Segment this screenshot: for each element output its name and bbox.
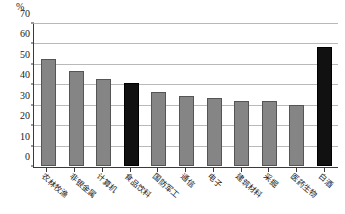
x-axis-category-labels: 农林牧渔非银金属计算机食品饮料国防军工通信电子建筑材料采掘医药生物白酒 <box>33 172 338 214</box>
x-label-slot: 采掘 <box>255 172 283 214</box>
bar-slot <box>200 24 228 166</box>
bar-slot <box>145 24 173 166</box>
x-label-slot: 食品饮料 <box>116 172 144 214</box>
bar <box>41 59 56 167</box>
bar <box>179 96 194 166</box>
y-tick-mark <box>31 84 34 85</box>
bar-slot <box>310 24 338 166</box>
x-category-label: 白酒 <box>316 172 334 189</box>
y-tick-label: 70 <box>20 9 30 19</box>
x-label-slot: 农林牧渔 <box>33 172 61 214</box>
bar <box>289 105 304 166</box>
bar-slot <box>173 24 201 166</box>
bar <box>207 98 222 166</box>
bar <box>234 101 249 166</box>
plot-area: 010203040506070 <box>33 24 338 168</box>
y-tick-mark <box>31 104 34 105</box>
bar-series <box>35 24 338 166</box>
x-category-label: 计算机 <box>95 172 119 194</box>
bar-slot <box>35 24 63 166</box>
bar-slot <box>228 24 256 166</box>
bar <box>124 83 139 166</box>
x-category-label: 采掘 <box>261 172 279 189</box>
gridline <box>34 166 338 167</box>
x-label-slot: 建筑材料 <box>227 172 255 214</box>
x-label-slot: 计算机 <box>88 172 116 214</box>
bar-slot <box>255 24 283 166</box>
bar-slot <box>63 24 91 166</box>
bar <box>317 47 332 166</box>
y-tick-mark <box>31 125 34 126</box>
x-category-label: 电子 <box>205 172 223 189</box>
y-tick-label: 30 <box>20 91 30 101</box>
y-tick-label: 10 <box>20 132 30 142</box>
y-tick-mark <box>31 145 34 146</box>
bar <box>69 71 84 166</box>
x-label-slot: 电子 <box>199 172 227 214</box>
y-tick-label: 50 <box>20 50 30 60</box>
x-label-slot: 医药生物 <box>283 172 311 214</box>
x-label-slot: 国防军工 <box>144 172 172 214</box>
bar-slot <box>283 24 311 166</box>
bar <box>262 101 277 166</box>
x-label-slot: 非银金属 <box>61 172 89 214</box>
y-tick-mark <box>31 23 34 24</box>
x-label-slot: 通信 <box>172 172 200 214</box>
x-label-slot: 白酒 <box>310 172 338 214</box>
bar <box>96 79 111 166</box>
y-tick-label: 0 <box>25 152 30 162</box>
y-tick-label: 60 <box>20 29 30 39</box>
y-tick-label: 40 <box>20 70 30 80</box>
bar-chart-figure: % 010203040506070 农林牧渔非银金属计算机食品饮料国防军工通信电… <box>0 0 345 214</box>
y-tick-mark <box>31 43 34 44</box>
bar <box>151 92 166 166</box>
bar-slot <box>90 24 118 166</box>
y-tick-mark <box>31 63 34 64</box>
x-category-label: 通信 <box>178 172 196 189</box>
bar-slot <box>118 24 146 166</box>
y-tick-mark <box>31 166 34 167</box>
y-tick-label: 20 <box>20 111 30 121</box>
